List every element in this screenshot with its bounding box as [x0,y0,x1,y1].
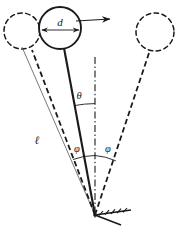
theta-label: θ [76,90,81,101]
phi-left-label: φ [74,143,80,154]
phi-right-label: φ [105,143,111,154]
diameter-label: d [57,16,63,28]
length-label: ℓ [35,134,40,146]
ball-current-solid [39,7,81,49]
pivot-point [93,213,97,217]
pendulum-diagram: d θ φ φ ℓ [0,0,184,232]
